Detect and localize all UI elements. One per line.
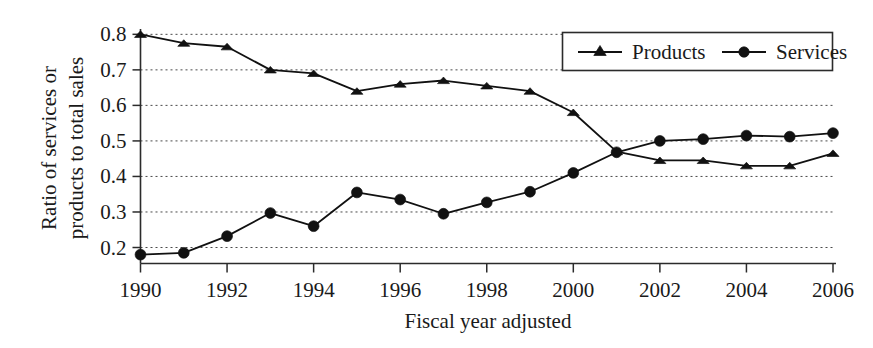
data-point-services [438,208,449,219]
x-tick-label: 2004 [725,278,768,302]
y-tick-label: 0.3 [100,200,126,224]
y-tick-label: 0.7 [100,58,126,82]
x-tick-marks [141,264,834,273]
x-tick-label: 2006 [812,278,854,302]
x-tick-label: 2000 [552,278,594,302]
data-point-services [654,136,665,147]
y-tick-label: 0.2 [100,236,126,260]
chart-legend[interactable]: Products Services [563,33,848,71]
x-tick-label: 1994 [293,278,336,302]
y-tick-label: 0.6 [100,93,126,117]
data-point-services [698,134,709,145]
x-tick-label: 1996 [379,278,421,302]
legend-label-products: Products [632,40,706,64]
line-chart: 0.20.30.40.50.60.70.8 199019921994199619… [0,0,873,348]
x-tick-label: 1992 [206,278,248,302]
data-point-services [222,231,233,242]
x-tick-label: 2002 [639,278,681,302]
chart-page: 0.20.30.40.50.60.70.8 199019921994199619… [0,0,873,348]
y-axis-title-line2: products to total sales [64,57,88,240]
data-point-services [308,221,319,232]
data-point-services [265,208,276,219]
y-tick-label: 0.5 [100,129,126,153]
series-line-services [141,133,834,255]
x-tick-label: 1998 [466,278,508,302]
data-point-services [352,187,363,198]
y-axis-title-line1: Ratio of services or [37,66,61,230]
data-point-services [828,128,839,139]
data-point-services [395,194,406,205]
data-point-services [611,147,622,158]
x-tick-label: 1990 [120,278,162,302]
data-point-services [568,168,579,179]
y-tick-labels: 0.20.30.40.50.60.70.8 [100,22,127,259]
y-tick-label: 0.4 [100,164,127,188]
x-tick-labels: 199019921994199619982000200220042006 [120,278,855,302]
x-axis-title: Fiscal year adjusted [405,309,572,333]
y-tick-marks [133,34,141,247]
data-point-services [481,197,492,208]
legend-marker-services-circle [739,47,749,57]
data-point-services [135,249,146,260]
data-point-services [784,131,795,142]
data-point-services [741,130,752,141]
data-point-services [178,247,189,258]
data-point-products [827,150,839,157]
legend-label-services: Services [776,40,847,64]
y-tick-label: 0.8 [100,22,126,46]
data-point-services [525,186,536,197]
